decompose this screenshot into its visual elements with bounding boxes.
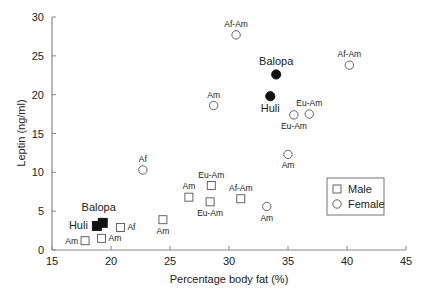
point-label: Af: [139, 154, 148, 164]
point-label: Eu-Am: [198, 170, 224, 180]
open-square-marker: [207, 182, 215, 190]
data-point: Af-Am: [229, 183, 253, 203]
y-tick-label: 25: [32, 50, 44, 62]
x-axis-label: Percentage body fat (%): [170, 273, 289, 285]
x-tick-label: 15: [46, 255, 58, 267]
data-point: Af-Am: [224, 19, 248, 39]
data-point: Eu-Am: [296, 98, 322, 118]
data-point: Af: [116, 222, 136, 232]
data-point: Am: [282, 150, 295, 170]
x-tick-label: 30: [223, 255, 235, 267]
y-tick-label: 20: [32, 89, 44, 101]
legend-label: Male: [348, 183, 372, 195]
data-point: Huli: [261, 92, 280, 115]
point-label: Eu-Am: [281, 121, 307, 131]
point-label: Af-Am: [229, 183, 253, 193]
point-label: Af-Am: [338, 49, 362, 59]
y-axis-label: Leptin (ng/ml): [15, 99, 27, 166]
point-label: Am: [282, 160, 295, 170]
data-point: Am: [183, 181, 196, 201]
y-tick-label: 15: [32, 128, 44, 140]
filled-circle-marker: [266, 92, 275, 101]
x-tick-label: 25: [164, 255, 176, 267]
data-points: AmAmAfAmAmEu-AmEu-AmAf-AmHuliBalopaAfAmA…: [65, 19, 361, 246]
x-tick-label: 35: [282, 255, 294, 267]
point-label: Af: [127, 222, 136, 232]
y-tick-label: 10: [32, 166, 44, 178]
legend-square-icon: [333, 185, 341, 193]
point-label: Am: [260, 213, 273, 223]
data-point: Am: [157, 216, 170, 236]
open-square-marker: [237, 195, 245, 203]
point-label: Am: [207, 90, 220, 100]
data-point: Balopa: [259, 55, 294, 79]
point-label: Eu-Am: [197, 208, 223, 218]
point-label: Huli: [69, 219, 88, 231]
open-circle-marker: [209, 101, 217, 109]
point-label: Am: [183, 181, 196, 191]
y-tick-label: 5: [38, 205, 44, 217]
open-circle-marker: [305, 110, 313, 118]
x-tick-label: 20: [105, 255, 117, 267]
x-tick-label: 40: [341, 255, 353, 267]
legend: MaleFemale: [327, 178, 385, 215]
data-point: Eu-Am: [197, 198, 223, 218]
open-square-marker: [159, 216, 167, 224]
open-circle-marker: [232, 31, 240, 39]
open-circle-marker: [345, 61, 353, 69]
point-label: Balopa: [82, 201, 117, 213]
open-square-marker: [116, 223, 124, 231]
point-label: Am: [109, 233, 122, 243]
data-point: Eu-Am: [281, 111, 307, 131]
point-label: Eu-Am: [296, 98, 322, 108]
filled-circle-marker: [272, 70, 281, 79]
point-label: Am: [65, 236, 78, 246]
point-label: Balopa: [259, 55, 294, 67]
y-tick-label: 30: [32, 11, 44, 23]
data-point: Am: [260, 202, 273, 222]
open-square-marker: [206, 198, 214, 206]
x-tick-label: 45: [400, 255, 412, 267]
open-square-marker: [185, 193, 193, 201]
legend-circle-icon: [333, 200, 341, 208]
data-point: Af: [139, 154, 148, 174]
open-circle-marker: [284, 150, 292, 158]
y-tick-label: 0: [38, 244, 44, 256]
open-circle-marker: [290, 111, 298, 119]
filled-square-marker: [98, 218, 107, 227]
data-point: Eu-Am: [198, 170, 224, 190]
point-label: Af-Am: [224, 19, 248, 29]
data-point: Am: [65, 236, 89, 246]
data-point: Am: [207, 90, 220, 110]
point-label: Huli: [261, 102, 280, 114]
legend-label: Female: [348, 198, 385, 210]
point-label: Am: [157, 226, 170, 236]
data-point: Am: [98, 233, 122, 243]
data-point: Af-Am: [338, 49, 362, 69]
open-square-marker: [81, 237, 89, 245]
data-point: Huli: [69, 219, 101, 231]
open-circle-marker: [263, 202, 271, 210]
scatter-chart: 15202530354045051015202530 AmAmAfAmAmEu-…: [0, 0, 425, 294]
open-circle-marker: [139, 166, 147, 174]
open-square-marker: [98, 234, 106, 242]
